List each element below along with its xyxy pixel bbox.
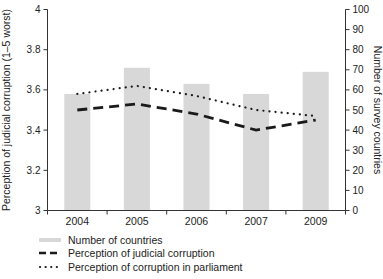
legend-label-number-of-countries: Number of countries [68, 234, 163, 246]
right-axis-tick-label: 10 [353, 185, 365, 196]
x-axis-year-label: 2006 [185, 215, 209, 227]
right-axis-tick-label: 30 [353, 145, 365, 156]
left-axis-tick-label: 3 [35, 205, 41, 216]
legend-swatch-dashed-line-icon [38, 249, 62, 257]
right-axis-tick-label: 0 [353, 205, 359, 216]
right-axis-tick-label: 50 [353, 105, 365, 116]
right-axis-tick-label: 80 [353, 44, 365, 55]
bar-number-of-countries [243, 94, 269, 211]
right-axis-tick-label: 40 [353, 125, 365, 136]
legend-label-parliament-corruption: Perception of corruption in parliament [68, 261, 243, 273]
bar-number-of-countries [184, 84, 210, 211]
legend: Number of countries Perception of judici… [38, 233, 243, 274]
left-axis-title: Perception of judicial corruption (1–5 w… [0, 9, 12, 211]
right-axis-tick-label: 90 [353, 24, 365, 35]
bar-number-of-countries [64, 94, 90, 211]
corruption-chart-figure: 33.23.43.63.8401020304050607080901002004… [0, 0, 383, 279]
x-axis-year-label: 2004 [66, 215, 90, 227]
left-axis-tick-label: 3.6 [27, 84, 41, 95]
left-axis-tick-label: 3.2 [27, 165, 41, 176]
left-axis-tick-label: 3.8 [27, 44, 41, 55]
legend-item-number-of-countries: Number of countries [38, 233, 243, 247]
right-axis-tick-label: 70 [353, 64, 365, 75]
bar-number-of-countries [303, 72, 329, 211]
x-axis-year-label: 2009 [304, 215, 328, 227]
bars-layer [64, 68, 328, 211]
right-axis-tick-label: 60 [353, 84, 365, 95]
x-axis-year-label: 2005 [125, 215, 149, 227]
legend-label-judicial-corruption: Perception of judicial corruption [68, 247, 215, 259]
right-axis-title: Number of survey countries [372, 46, 383, 174]
left-axis-tick-label: 3.4 [27, 125, 41, 136]
legend-swatch-dotted-line-icon [38, 263, 62, 271]
left-axis-tick-label: 4 [35, 4, 41, 15]
bar-number-of-countries [124, 68, 150, 211]
legend-item-parliament-corruption: Perception of corruption in parliament [38, 260, 243, 274]
right-axis-tick-label: 100 [353, 4, 370, 15]
right-axis-tick-label: 20 [353, 165, 365, 176]
legend-item-judicial-corruption: Perception of judicial corruption [38, 247, 243, 261]
legend-swatch-bar-icon [38, 236, 62, 244]
x-axis-year-label: 2007 [244, 215, 268, 227]
